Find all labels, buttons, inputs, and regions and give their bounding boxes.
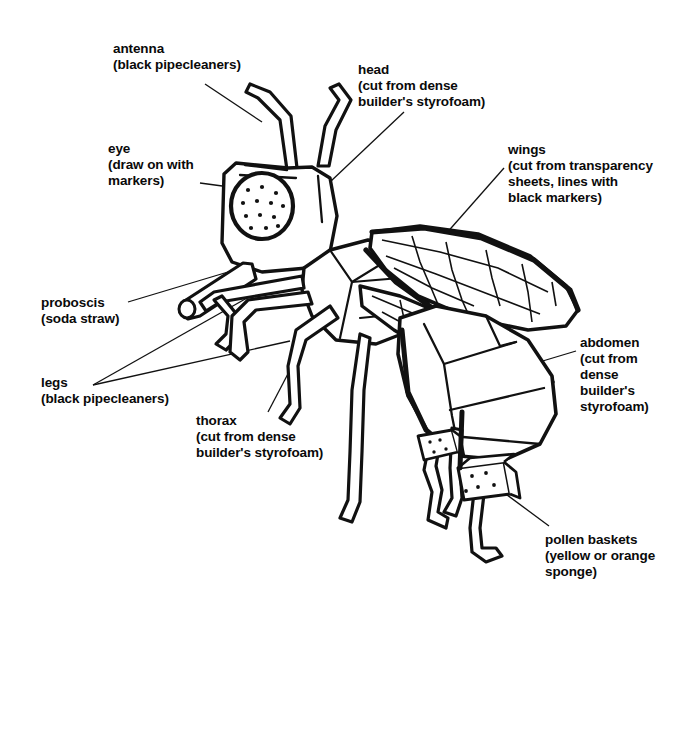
label-head: head (cut from dense builder's styrofoam…: [358, 62, 485, 110]
label-proboscis: proboscis (soda straw): [41, 295, 119, 327]
leg-rear-lowest: [470, 492, 502, 562]
proboscis-opening: [179, 300, 195, 318]
label-pollen-baskets: pollen baskets (yellow or orange sponge): [545, 532, 655, 580]
label-legs: legs (black pipecleaners): [41, 375, 169, 407]
label-antenna: antenna (black pipecleaners): [113, 41, 241, 73]
antenna-right: [318, 84, 351, 166]
leg-mid-rear: [280, 306, 338, 424]
pollen-basket-lower: [458, 454, 520, 500]
antenna-left: [246, 84, 297, 170]
label-thorax: thorax (cut from dense builder's styrofo…: [196, 413, 323, 461]
eye-group: [231, 173, 293, 239]
diagram-page: antenna (black pipecleaners) head (cut f…: [0, 0, 690, 749]
label-wings: wings (cut from transparency sheets, lin…: [508, 142, 653, 206]
leg-hind-long: [340, 334, 370, 522]
abdomen-tip-shaft: [460, 412, 462, 468]
label-eye: eye (draw on with markers): [108, 141, 194, 189]
label-abdomen: abdomen (cut from dense builder's styrof…: [580, 335, 649, 415]
antennae-group: [246, 84, 351, 170]
